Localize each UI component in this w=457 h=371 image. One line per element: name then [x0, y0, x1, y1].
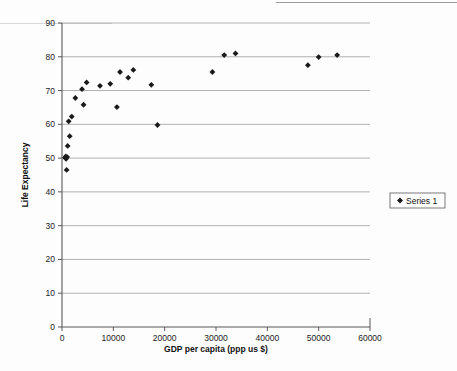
y-axis-tick-label: 30	[46, 221, 56, 231]
y-axis-tick-label: 90	[46, 18, 56, 28]
data-point-marker	[155, 122, 161, 128]
data-point-marker	[79, 86, 85, 92]
data-point-marker	[107, 81, 113, 87]
legend-label-series-1: Series 1	[406, 196, 437, 206]
gridlines-group	[62, 23, 370, 293]
data-point-marker	[316, 54, 322, 60]
chart-container: 0102030405060708090 01000020000300004000…	[0, 0, 457, 371]
data-point-marker	[72, 95, 78, 101]
x-axis-tick-label: 20000	[153, 333, 177, 343]
y-axis-tick-label: 40	[46, 187, 56, 197]
y-axis-tick-label: 60	[46, 119, 56, 129]
data-point-marker	[64, 167, 70, 173]
y-axis-ticks-group: 0102030405060708090	[46, 18, 62, 332]
data-point-marker	[114, 104, 120, 110]
x-axis-title: GDP per capita (ppp us $)	[164, 344, 268, 354]
x-axis-tick-label: 10000	[102, 333, 126, 343]
data-point-marker	[117, 69, 123, 75]
x-axis-tick-label: 40000	[256, 333, 280, 343]
x-axis-tick-label: 50000	[307, 333, 331, 343]
data-point-marker	[65, 143, 71, 149]
data-point-marker	[84, 80, 90, 86]
x-axis-tick-label: 0	[60, 333, 65, 343]
y-axis-tick-label: 20	[46, 254, 56, 264]
y-axis-tick-label: 80	[46, 52, 56, 62]
scatter-plot: 0102030405060708090 01000020000300004000…	[0, 0, 457, 371]
data-point-marker	[81, 102, 87, 108]
data-point-marker	[97, 83, 103, 89]
data-point-marker	[130, 67, 136, 73]
legend[interactable]: Series 1	[390, 193, 445, 208]
data-point-marker	[210, 69, 216, 75]
data-point-marker	[233, 51, 239, 57]
y-axis-tick-label: 50	[46, 153, 56, 163]
data-points-group	[62, 51, 340, 173]
x-axis-tick-label: 60000	[358, 333, 382, 343]
data-point-marker	[67, 133, 73, 139]
data-point-marker	[125, 75, 131, 81]
y-axis-title: Life Expectancy	[20, 142, 30, 207]
x-axis-ticks-group: 0100002000030000400005000060000	[60, 327, 382, 343]
y-axis-tick-label: 0	[50, 322, 55, 332]
y-axis-tick-label: 10	[46, 288, 56, 298]
data-point-marker	[305, 62, 311, 68]
data-point-marker	[66, 118, 72, 124]
data-point-marker	[148, 82, 154, 88]
data-point-marker	[69, 114, 75, 120]
y-axis-tick-label: 70	[46, 86, 56, 96]
x-axis-tick-label: 30000	[204, 333, 228, 343]
